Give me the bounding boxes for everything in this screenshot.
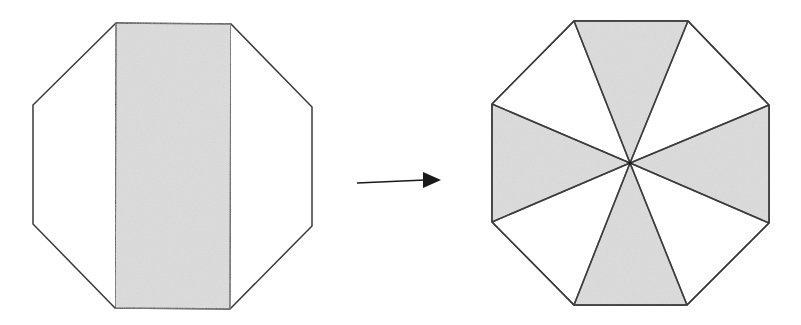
arrow-head-icon	[423, 172, 441, 188]
arrow-shaft	[357, 180, 425, 183]
left-shaded-strip	[115, 23, 231, 309]
diagram-stage: Octagon dissection: a central vertical s…	[0, 0, 801, 325]
center-point	[628, 161, 631, 164]
transform-arrow	[357, 172, 441, 188]
right-octagon-figure	[492, 21, 769, 305]
left-octagon-figure	[33, 23, 312, 309]
diagram-canvas	[0, 0, 801, 325]
